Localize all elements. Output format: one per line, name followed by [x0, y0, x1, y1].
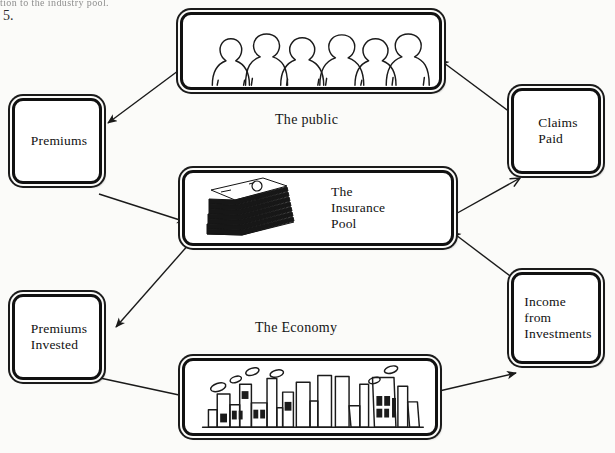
stack-of-banknotes-icon: [191, 170, 301, 246]
arrow-income-to-pool: [452, 232, 518, 282]
node-premiums-label: Premiums: [27, 133, 87, 149]
node-income-from-investments[interactable]: Income from Investments: [511, 272, 601, 364]
node-premiums-invested-label: Premiums Invested: [27, 321, 87, 353]
list-number: 5.: [3, 8, 14, 24]
node-claims-paid-label: Claims Paid: [534, 115, 577, 147]
factories-skyline-icon: [185, 358, 435, 436]
node-insurance-pool[interactable]: The Insurance Pool: [182, 170, 454, 246]
arrow-premiums-invested-to-economy: [100, 378, 193, 398]
scanned-header-text: tion to the industry pool.: [0, 0, 109, 8]
node-income-label: Income from Investments: [520, 294, 591, 342]
arrow-public-to-premiums: [108, 62, 190, 123]
node-premiums[interactable]: Premiums: [12, 98, 102, 184]
arrow-pool-to-claims: [452, 178, 520, 216]
node-the-public[interactable]: [180, 12, 442, 90]
node-claims-paid[interactable]: Claims Paid: [511, 88, 601, 174]
caption-the-public: The public: [275, 112, 338, 128]
arrow-premiums-to-pool: [99, 194, 186, 222]
arrow-claims-to-public: [440, 60, 518, 118]
caption-the-economy: The Economy: [255, 320, 337, 336]
node-the-economy[interactable]: [182, 358, 438, 436]
crowd-of-people-icon: [183, 12, 439, 90]
diagram-canvas: tion to the industry pool. 5.: [0, 0, 615, 453]
node-insurance-pool-label: The Insurance Pool: [331, 184, 385, 232]
node-premiums-invested[interactable]: Premiums Invested: [12, 294, 102, 380]
arrow-economy-to-income: [435, 373, 516, 392]
arrow-pool-to-premiums-invested: [116, 243, 190, 327]
